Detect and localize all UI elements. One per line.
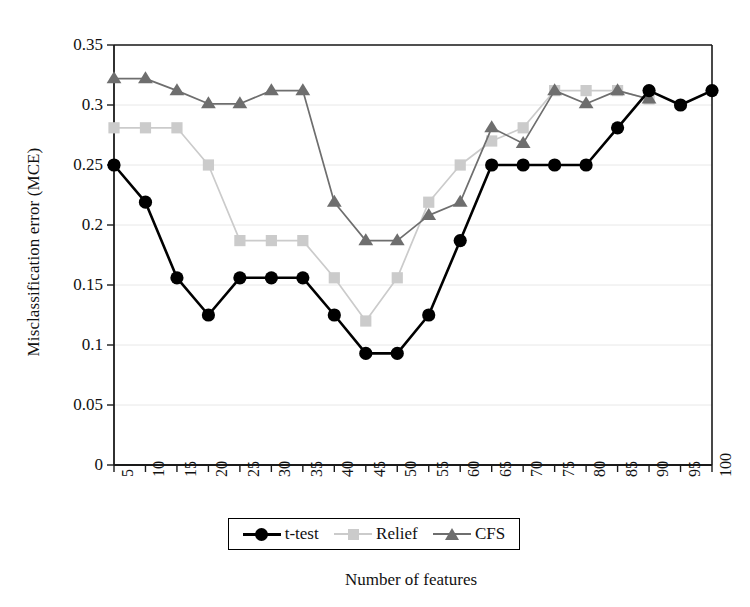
data-point-circle [674, 98, 687, 111]
x-tick-label: 30 [277, 461, 293, 477]
legend-label-relief: Relief [376, 524, 418, 544]
data-point-circle [233, 271, 246, 284]
y-tick-label: 0 [43, 456, 103, 473]
data-point-square [455, 159, 466, 170]
x-tick-label: 80 [592, 461, 608, 477]
chart-figure: Misclassification error (MCE) Number of … [0, 0, 750, 607]
x-tick-label: 65 [498, 461, 514, 477]
x-tick-label: 10 [151, 461, 167, 477]
x-tick-label: 50 [403, 461, 419, 477]
x-tick-label: 100 [718, 453, 734, 477]
data-point-square [360, 315, 371, 326]
data-point-square [392, 272, 403, 283]
data-point-square [423, 197, 434, 208]
data-point-square [108, 122, 119, 133]
x-tick-label: 35 [309, 461, 325, 477]
data-point-square [203, 159, 214, 170]
x-tick-label: 95 [687, 461, 703, 477]
data-point-circle [202, 308, 215, 321]
data-point-square [581, 85, 592, 96]
x-tick-label: 15 [183, 461, 199, 477]
legend-swatch-t-test [243, 526, 281, 542]
x-tick-label: 70 [529, 461, 545, 477]
triangle-marker-icon [445, 528, 459, 540]
legend-item-t-test: t-test [243, 524, 319, 544]
legend-item-cfs: CFS [433, 524, 505, 544]
x-tick-label: 75 [561, 461, 577, 477]
legend-swatch-cfs [433, 526, 471, 542]
data-point-circle [107, 158, 120, 171]
data-point-circle [391, 347, 404, 360]
data-point-circle [296, 271, 309, 284]
x-tick-label: 55 [435, 461, 451, 477]
x-tick-label: 90 [655, 461, 671, 477]
data-point-circle [548, 158, 561, 171]
data-point-circle [517, 158, 530, 171]
x-tick-label: 5 [120, 469, 136, 477]
data-point-circle [580, 158, 593, 171]
data-point-square [297, 235, 308, 246]
data-point-circle [611, 121, 624, 134]
chart-legend: t-test Relief CFS [228, 518, 520, 550]
data-point-circle [139, 196, 152, 209]
data-point-circle [265, 271, 278, 284]
x-tick-label: 40 [340, 461, 356, 477]
data-point-square [329, 272, 340, 283]
x-tick-label: 45 [372, 461, 388, 477]
legend-label-t-test: t-test [285, 524, 319, 544]
data-point-square [140, 122, 151, 133]
y-tick-label: 0.35 [43, 36, 103, 53]
x-tick-label: 25 [246, 461, 262, 477]
y-tick-label: 0.15 [43, 276, 103, 293]
plot-area [0, 0, 750, 607]
y-tick-label: 0.1 [43, 336, 103, 353]
y-tick-label: 0.25 [43, 156, 103, 173]
x-tick-label: 85 [624, 461, 640, 477]
y-tick-label: 0.2 [43, 216, 103, 233]
data-point-circle [705, 84, 718, 97]
data-point-square [518, 122, 529, 133]
data-point-circle [328, 308, 341, 321]
y-tick-label: 0.05 [43, 396, 103, 413]
square-marker-icon [348, 529, 359, 540]
data-point-square [171, 122, 182, 133]
data-point-circle [454, 234, 467, 247]
legend-item-relief: Relief [334, 524, 418, 544]
data-point-square [266, 235, 277, 246]
legend-swatch-relief [334, 526, 372, 542]
data-point-circle [485, 158, 498, 171]
data-point-circle [642, 84, 655, 97]
y-tick-label: 0.3 [43, 96, 103, 113]
data-point-circle [422, 308, 435, 321]
data-point-circle [359, 347, 372, 360]
circle-marker-icon [255, 528, 268, 541]
legend-label-cfs: CFS [475, 524, 505, 544]
data-point-circle [170, 271, 183, 284]
x-tick-label: 20 [214, 461, 230, 477]
data-point-square [234, 235, 245, 246]
x-tick-label: 60 [466, 461, 482, 477]
